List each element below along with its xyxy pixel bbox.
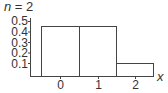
bar-0 xyxy=(42,27,80,77)
bar-2 xyxy=(117,64,154,77)
x-axis-label: x xyxy=(157,69,164,84)
histogram-chart: n = 2 0.5 0.4 0.3 0.2 0.1 0 1 2 x xyxy=(0,0,168,93)
bar-1 xyxy=(80,27,117,77)
y-tick-label: 0.1 xyxy=(0,58,28,70)
x-tick-label: 1 xyxy=(93,79,105,91)
x-tick-label: 2 xyxy=(130,79,142,91)
x-tick-label: 0 xyxy=(55,79,67,91)
